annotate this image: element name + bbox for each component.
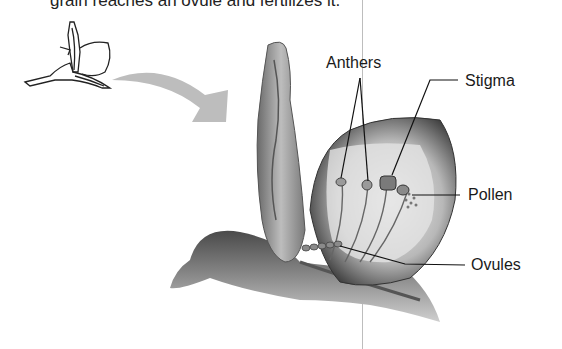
label-anthers: Anthers bbox=[326, 54, 381, 72]
label-ovules: Ovules bbox=[471, 256, 521, 274]
small-flower-outline-icon bbox=[25, 22, 110, 88]
label-stigma: Stigma bbox=[465, 72, 515, 90]
label-pollen: Pollen bbox=[468, 186, 512, 204]
diagram-canvas bbox=[0, 0, 562, 349]
flower-cross-section-icon bbox=[170, 42, 456, 322]
curved-arrow-icon bbox=[112, 73, 228, 122]
